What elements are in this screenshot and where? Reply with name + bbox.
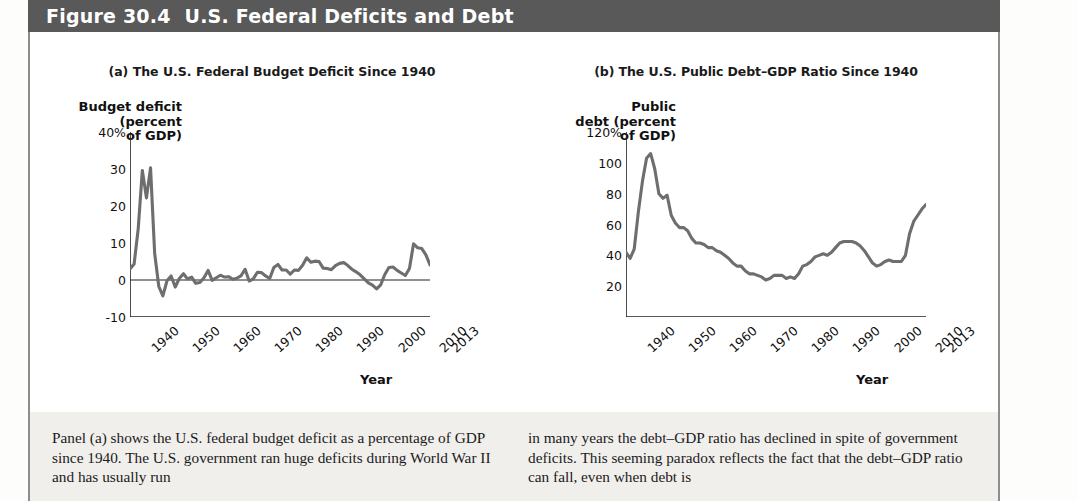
- x-tick-label: 1980: [313, 323, 347, 355]
- panel-b-plot-area: [626, 132, 926, 317]
- panel-b-y-ticks: 20406080100120%: [568, 132, 622, 317]
- x-tick-label: 1990: [850, 323, 884, 355]
- y-tick-label: 40%: [98, 125, 126, 140]
- caption-right-column: in many years the debt–GDP ratio has dec…: [528, 428, 976, 501]
- figure-panels: (a) The U.S. Federal Budget Deficit Sinc…: [30, 34, 998, 410]
- panel-b-x-ticks: 194019501960197019801990200020102013: [626, 319, 926, 359]
- x-tick-label: 1950: [189, 323, 223, 355]
- figure-header-title: Figure 30.4U.S. Federal Deficits and Deb…: [46, 5, 514, 27]
- panel-a-y-ticks: -10010203040%: [72, 132, 126, 317]
- y-tick-label: -10: [106, 310, 126, 325]
- y-tick-label: 30: [110, 162, 126, 177]
- y-tick-label: 10: [110, 236, 126, 251]
- x-tick-label: 1940: [148, 323, 182, 355]
- figure-caption: Panel (a) shows the U.S. federal budget …: [30, 412, 998, 501]
- y-tick-label: 20: [110, 199, 126, 214]
- panel-a-chart-svg: [130, 132, 430, 317]
- y-tick-label: 80: [606, 186, 622, 201]
- x-tick-label: 1980: [809, 323, 843, 355]
- figure-title: U.S. Federal Deficits and Debt: [185, 5, 514, 27]
- x-tick-label: 1950: [685, 323, 719, 355]
- panel-a-x-ticks: 194019501960197019801990200020102013: [130, 319, 430, 359]
- y-tick-label: 20: [606, 279, 622, 294]
- y-tick-label: 100: [598, 155, 622, 170]
- caption-left-column: Panel (a) shows the U.S. federal budget …: [52, 428, 500, 501]
- y-tick-label: 40: [606, 248, 622, 263]
- panel-a-plot-area: [130, 132, 430, 317]
- panel-b: (b) The U.S. Public Debt–GDP Ratio Since…: [514, 34, 998, 410]
- y-tick-label: 0: [118, 273, 126, 288]
- figure-header-bar: Figure 30.4U.S. Federal Deficits and Deb…: [28, 0, 1000, 32]
- x-tick-label: 2000: [891, 323, 925, 355]
- x-tick-label: 1960: [726, 323, 760, 355]
- y-tick-label: 120%: [586, 125, 622, 140]
- panel-a: (a) The U.S. Federal Budget Deficit Sinc…: [30, 34, 514, 410]
- panel-a-title: (a) The U.S. Federal Budget Deficit Sinc…: [30, 64, 514, 79]
- x-tick-label: 2000: [395, 323, 429, 355]
- x-tick-label: 1940: [644, 323, 678, 355]
- panel-b-x-axis-label: Year: [856, 372, 888, 387]
- y-tick-label: 60: [606, 217, 622, 232]
- x-tick-label: 1960: [230, 323, 264, 355]
- x-tick-label: 1970: [271, 323, 305, 355]
- figure-number: Figure 30.4: [46, 5, 171, 27]
- x-tick-label: 1970: [767, 323, 801, 355]
- panel-a-x-axis-label: Year: [360, 372, 392, 387]
- x-tick-label: 1990: [354, 323, 388, 355]
- panel-b-chart-svg: [626, 132, 926, 317]
- panel-b-title: (b) The U.S. Public Debt–GDP Ratio Since…: [514, 64, 998, 79]
